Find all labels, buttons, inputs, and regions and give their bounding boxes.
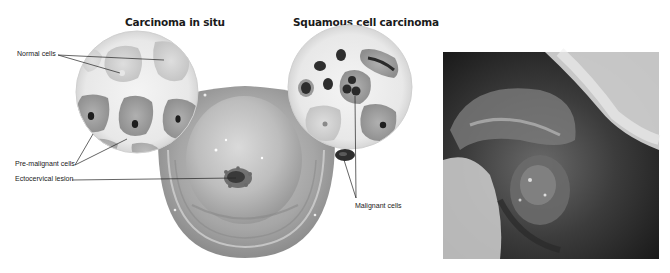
- label-pre-malignant-cells: Pre-malignant cells: [15, 159, 75, 168]
- cervix-illustration: [0, 0, 670, 273]
- normal-cell: [104, 46, 142, 82]
- label-normal-cells: Normal cells: [17, 49, 56, 58]
- label-malignant-cells: Malignant cells: [355, 201, 402, 210]
- label-ectocervical-lesion: Ectocervical lesion: [15, 174, 73, 183]
- clinical-photo: [443, 52, 659, 259]
- pre-malignant-cell: [119, 96, 153, 136]
